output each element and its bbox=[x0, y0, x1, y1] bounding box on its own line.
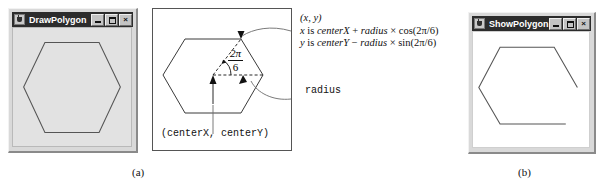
formula-y-times: × bbox=[387, 37, 398, 48]
formula-x-radius: radius bbox=[361, 25, 388, 36]
show-polygon-canvas bbox=[472, 31, 590, 148]
java-cup-icon bbox=[14, 14, 25, 25]
close-icon: × bbox=[120, 15, 131, 25]
closed-hexagon-graphic bbox=[13, 28, 131, 146]
draw-polygon-titlebar[interactable]: DrawPolygon × bbox=[12, 12, 133, 27]
formula-x-plus: + bbox=[350, 25, 361, 36]
maximize-button[interactable] bbox=[105, 14, 118, 26]
maximize-button[interactable] bbox=[563, 18, 576, 30]
point-label-text: (x, y) bbox=[300, 12, 322, 23]
formula-y-centery: centerY bbox=[317, 37, 349, 48]
caption-a: (a) bbox=[132, 166, 144, 178]
formula-y-is: is bbox=[305, 37, 317, 48]
open-hexagon-graphic bbox=[473, 32, 589, 147]
formula-y-minus: − bbox=[349, 37, 360, 48]
close-button[interactable]: × bbox=[119, 14, 132, 26]
formula-x-centerx: centerX bbox=[317, 25, 350, 36]
formula-y-trig: sin(2π/6) bbox=[398, 37, 436, 48]
minimize-button[interactable] bbox=[91, 14, 104, 26]
minimize-button[interactable] bbox=[549, 18, 562, 30]
show-polygon-title: ShowPolygon bbox=[489, 19, 549, 29]
formula-x-is: is bbox=[305, 25, 317, 36]
java-cup-icon bbox=[474, 18, 485, 29]
show-polygon-window-controls[interactable]: × bbox=[549, 18, 590, 30]
angle-denominator: 6 bbox=[228, 62, 243, 73]
show-polygon-titlebar[interactable]: ShowPolygon × bbox=[472, 16, 591, 31]
show-polygon-window[interactable]: ShowPolygon × bbox=[468, 12, 596, 154]
angle-numerator: 2π bbox=[228, 48, 243, 59]
close-button[interactable]: × bbox=[577, 18, 590, 30]
draw-polygon-title: DrawPolygon bbox=[29, 15, 91, 25]
draw-polygon-window-controls[interactable]: × bbox=[91, 14, 132, 26]
center-point-label: (centerX, centerY) bbox=[161, 128, 269, 139]
formula-x-trig: cos(2π/6) bbox=[399, 25, 439, 36]
angle-fraction: 2π 6 bbox=[228, 48, 243, 73]
formula-x-times: × bbox=[388, 25, 399, 36]
draw-polygon-window[interactable]: DrawPolygon × bbox=[8, 8, 138, 153]
close-icon: × bbox=[578, 19, 589, 29]
draw-polygon-canvas bbox=[12, 27, 132, 147]
radius-label: radius bbox=[305, 85, 341, 96]
formula-y-radius: radius bbox=[360, 37, 387, 48]
caption-b: (b) bbox=[518, 166, 531, 178]
